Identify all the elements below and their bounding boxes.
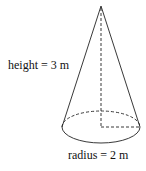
radius-label: radius = 2 m — [68, 149, 128, 161]
cone-right-side — [101, 6, 140, 127]
height-label: height = 3 m — [8, 59, 69, 71]
cone-figure — [0, 0, 146, 171]
base-front-arc — [62, 127, 140, 143]
